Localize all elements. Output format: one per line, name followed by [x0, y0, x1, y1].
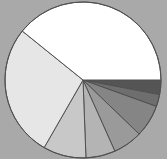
pie-chart: [0, 0, 167, 159]
pie-chart-svg: [0, 0, 167, 159]
